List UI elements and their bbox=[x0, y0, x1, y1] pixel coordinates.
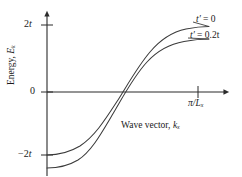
x-tick-label-pi-over-l: π/Lx bbox=[188, 99, 203, 109]
y-tick-label-2t: 2t bbox=[24, 19, 32, 29]
y-axis-title: Energy, Ek bbox=[7, 29, 17, 101]
band-structure-figure: 2t 0 −2t Energy, Ek Wave vector, kx π/Lx… bbox=[0, 0, 242, 177]
legend-label-t-prime-0.2t: t′ = 0.2t bbox=[190, 31, 219, 41]
curve-t-prime-0 bbox=[47, 27, 209, 156]
plot-canvas bbox=[0, 0, 242, 177]
curve-t-prime-0.2t bbox=[47, 39, 209, 168]
legend-label-t-prime-0: t′ = 0 bbox=[196, 15, 216, 25]
y-tick-label-zero: 0 bbox=[30, 86, 35, 96]
y-tick-label-minus-2t: −2t bbox=[18, 149, 31, 159]
x-axis-title: Wave vector, kx bbox=[121, 121, 180, 131]
